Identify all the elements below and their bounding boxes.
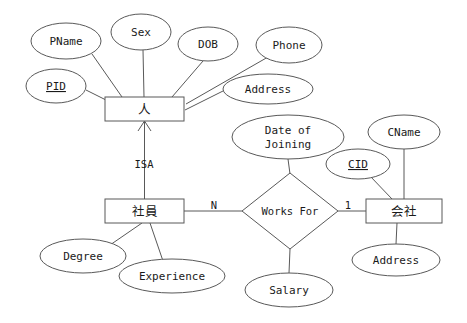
er-diagram-svg: PName Sex DOB Phone PID Address xyxy=(0,0,467,323)
entity-person[interactable]: 人 xyxy=(105,97,184,121)
attribute-degree-label: Degree xyxy=(63,250,103,263)
relationship-works-for-label: Works For xyxy=(262,205,319,217)
attribute-degree[interactable]: Degree xyxy=(40,239,126,273)
link-dateofjoining-worksfor xyxy=(288,159,290,174)
link-sex-person xyxy=(143,50,144,97)
attribute-cname-label: CName xyxy=(387,126,420,139)
attribute-salary[interactable]: Salary xyxy=(245,273,333,307)
relationship-works-for[interactable]: Works For xyxy=(242,173,338,249)
link-degree-employee xyxy=(110,223,142,245)
entity-company-label: 会社 xyxy=(391,204,417,219)
attribute-pid-label: PID xyxy=(46,80,66,93)
attribute-nodes: PName Sex DOB Phone PID Address xyxy=(26,14,440,307)
link-dob-person xyxy=(172,61,203,97)
cardinality-n-label: N xyxy=(211,199,217,211)
cardinality-1-label: 1 xyxy=(345,199,351,211)
attribute-address-company-label: Address xyxy=(373,254,419,267)
attribute-experience-label: Experience xyxy=(139,270,205,283)
attribute-phone-label: Phone xyxy=(272,39,305,52)
er-diagram-canvas: PName Sex DOB Phone PID Address xyxy=(0,0,467,323)
attribute-address-company[interactable]: Address xyxy=(352,244,440,276)
attribute-cid-label: CID xyxy=(348,158,368,171)
entity-person-label: 人 xyxy=(138,102,151,117)
attribute-address-person[interactable]: Address xyxy=(223,74,313,104)
attribute-experience[interactable]: Experience xyxy=(119,259,225,293)
attribute-sex-label: Sex xyxy=(131,26,151,39)
entity-employee[interactable]: 社員 xyxy=(105,199,184,223)
attribute-pname-label: PName xyxy=(49,35,82,48)
link-experience-employee xyxy=(150,223,163,261)
attribute-dob[interactable]: DOB xyxy=(178,27,238,61)
isa-label: ISA xyxy=(135,158,155,170)
attribute-pname[interactable]: PName xyxy=(31,23,101,59)
attribute-date-of-joining-label-line1: Date of xyxy=(265,124,311,137)
attribute-salary-label: Salary xyxy=(269,284,309,297)
attribute-pid[interactable]: PID xyxy=(26,69,86,103)
link-address-company xyxy=(396,223,397,244)
attribute-date-of-joining[interactable]: Date of Joining xyxy=(232,115,344,159)
link-cid-company xyxy=(370,176,392,199)
link-pid-person xyxy=(86,90,106,100)
entity-employee-label: 社員 xyxy=(132,204,158,219)
link-salary-worksfor xyxy=(289,249,290,273)
attribute-date-of-joining-label-line2: Joining xyxy=(265,138,311,151)
attribute-address-person-label: Address xyxy=(245,83,291,96)
attribute-dob-label: DOB xyxy=(198,38,218,51)
attribute-phone[interactable]: Phone xyxy=(256,27,322,63)
link-pname-person xyxy=(92,54,122,97)
entity-company[interactable]: 会社 xyxy=(366,199,442,223)
attribute-cid[interactable]: CID xyxy=(326,149,390,179)
attribute-cname[interactable]: CName xyxy=(368,115,440,149)
attribute-sex[interactable]: Sex xyxy=(111,14,171,50)
